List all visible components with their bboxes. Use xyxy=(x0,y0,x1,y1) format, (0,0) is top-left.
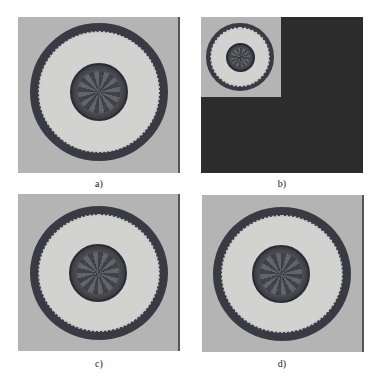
panel-a-label: a) xyxy=(79,178,119,189)
image-edge xyxy=(178,194,180,351)
panel-b-canvas xyxy=(201,17,363,173)
plate-center-medallion xyxy=(70,63,128,121)
panel-d-label: d) xyxy=(262,358,302,369)
panel-c-image xyxy=(18,194,180,351)
panel-b-label: b) xyxy=(262,178,302,189)
image-edge xyxy=(362,195,364,352)
panel-b-thumbnail xyxy=(201,17,281,97)
panel-c-label: c) xyxy=(79,358,119,369)
plate-center-medallion xyxy=(69,244,127,302)
panel-d-image xyxy=(202,195,364,352)
panel-a-image xyxy=(18,17,180,173)
image-edge xyxy=(178,17,180,173)
plate-center-medallion xyxy=(252,245,310,303)
plate-center-medallion xyxy=(226,43,255,72)
